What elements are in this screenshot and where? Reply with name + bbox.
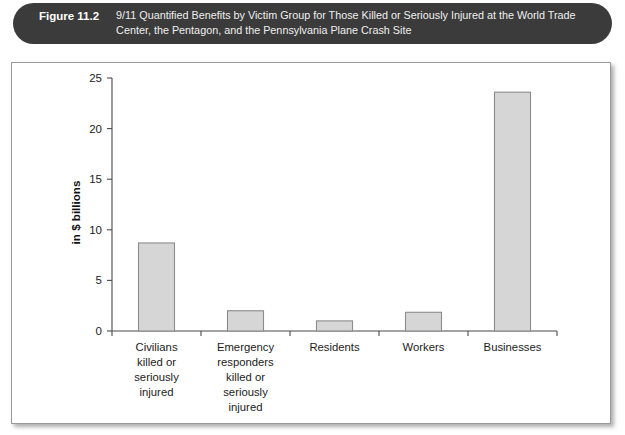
bar[interactable] xyxy=(139,243,175,331)
x-axis-category-label: Emergency xyxy=(217,341,274,353)
x-axis-category-label: seriously xyxy=(134,371,179,383)
figure-caption-line-1: 9/11 Quantified Benefits by Victim Group… xyxy=(116,9,576,21)
bar[interactable] xyxy=(495,92,531,331)
x-axis-category-label: Civilians xyxy=(135,341,177,353)
y-axis-tick-label: 25 xyxy=(89,72,102,84)
figure-caption-text: 9/11 Quantified Benefits by Victim Group… xyxy=(116,8,590,38)
x-axis-category-label: Businesses xyxy=(484,341,542,353)
bar[interactable] xyxy=(406,312,442,331)
x-axis-category-label: killed or xyxy=(137,356,176,368)
x-axis-category-label: injured xyxy=(140,386,174,398)
y-axis-tick-label: 0 xyxy=(96,325,102,337)
y-axis-tick-label: 15 xyxy=(89,173,102,185)
figure-number-label: Figure 11.2 xyxy=(39,8,99,24)
x-axis-category-label: responders xyxy=(217,356,274,368)
x-axis-category-label: injured xyxy=(229,401,263,413)
y-axis-tick-label: 5 xyxy=(96,274,102,286)
x-axis-category-label: killed or xyxy=(226,371,265,383)
bar-chart-svg: 0510152025in $ billionsCivilianskilled o… xyxy=(12,63,612,425)
x-axis-category-label: Workers xyxy=(403,341,445,353)
figure-caption-banner: Figure 11.2 9/11 Quantified Benefits by … xyxy=(13,3,612,44)
bar[interactable] xyxy=(317,321,353,331)
chart-panel: 0510152025in $ billionsCivilianskilled o… xyxy=(11,62,611,424)
y-axis-tick-label: 10 xyxy=(89,224,102,236)
y-axis-tick-label: 20 xyxy=(89,123,102,135)
x-axis-category-label: Residents xyxy=(309,341,360,353)
bar[interactable] xyxy=(228,311,264,331)
bar-chart: 0510152025in $ billionsCivilianskilled o… xyxy=(12,63,612,425)
x-axis-category-label: seriously xyxy=(223,386,268,398)
y-axis-title: in $ billions xyxy=(69,181,82,245)
figure-caption-line-2: Center, the Pentagon, and the Pennsylvan… xyxy=(116,24,411,36)
